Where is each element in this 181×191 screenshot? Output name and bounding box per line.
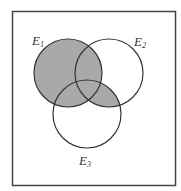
venn-diagram: E1 E2 E3: [0, 0, 181, 191]
